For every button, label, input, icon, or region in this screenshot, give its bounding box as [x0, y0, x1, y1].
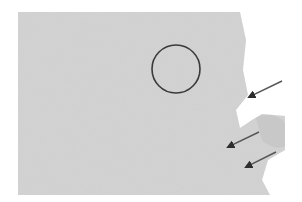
micrograph-figure	[0, 0, 302, 202]
